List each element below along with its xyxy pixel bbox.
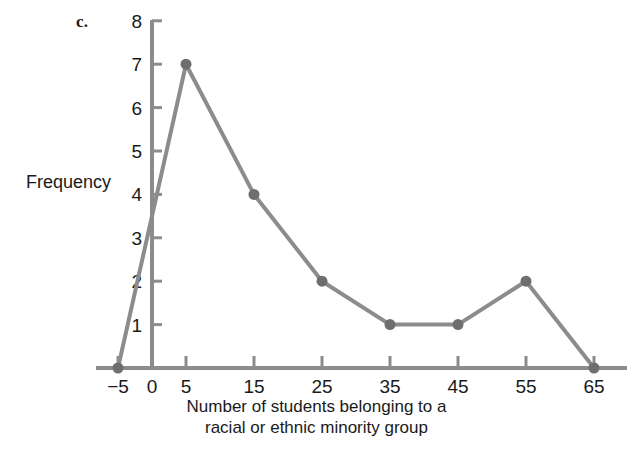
data-point-marker [181, 59, 192, 70]
x-tick-label: 55 [515, 376, 536, 397]
x-tick-label: 25 [311, 376, 332, 397]
y-tick-label: 3 [131, 228, 142, 249]
y-tick-label: 1 [131, 315, 142, 336]
data-point-marker [317, 276, 328, 287]
x-tick-label: 15 [243, 376, 264, 397]
x-axis-title: Number of students belonging to a racial… [0, 396, 633, 438]
data-point-markers [113, 59, 600, 374]
data-point-marker [453, 319, 464, 330]
axes-group [96, 20, 627, 370]
x-tick-label: 0 [147, 376, 158, 397]
x-tick-label: −5 [107, 376, 129, 397]
data-point-marker [589, 363, 600, 374]
y-tick-label: 5 [131, 141, 142, 162]
frequency-polygon-chart: 12345678 −505152535455565 [0, 0, 633, 455]
y-tick-label: 7 [131, 54, 142, 75]
x-axis-title-line2: racial or ethnic minority group [0, 417, 633, 438]
data-point-marker [249, 189, 260, 200]
x-tick-label: 65 [583, 376, 604, 397]
figure-container: c. Frequency 12345678 −505152535455565 N… [0, 0, 633, 455]
x-axis-title-line1: Number of students belonging to a [0, 396, 633, 417]
x-tick-label: 5 [181, 376, 192, 397]
data-point-marker [385, 319, 396, 330]
data-point-marker [113, 363, 124, 374]
x-tick-label: 45 [447, 376, 468, 397]
data-point-marker [521, 276, 532, 287]
y-tick-label: 4 [131, 184, 142, 205]
frequency-polyline [118, 64, 594, 368]
y-tick-label: 8 [131, 11, 142, 32]
y-tick-label: 6 [131, 98, 142, 119]
x-tick-label: 35 [379, 376, 400, 397]
data-series-line [118, 64, 594, 368]
x-axis-ticks: −505152535455565 [107, 356, 604, 397]
